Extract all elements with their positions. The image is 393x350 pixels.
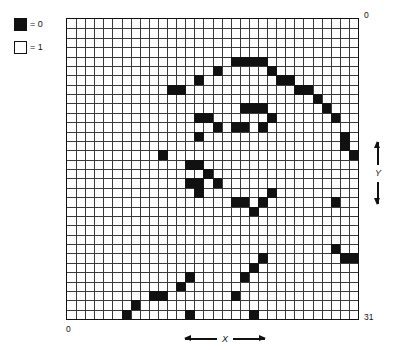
grid-cell-on[interactable] — [213, 122, 223, 132]
axis-label-top-right: 0 — [364, 11, 369, 20]
grid-cell-on[interactable] — [194, 75, 204, 85]
arrow-right-icon — [233, 338, 265, 339]
arrow-up-icon — [377, 142, 378, 165]
grid-cell-on[interactable] — [331, 197, 341, 207]
legend: = 0 = 1 — [14, 16, 62, 62]
grid-line-horizontal — [67, 225, 358, 226]
x-axis-label: X — [217, 335, 233, 344]
legend-item-zero: = 0 — [14, 16, 62, 33]
grid-cell-on[interactable] — [194, 188, 204, 198]
grid-line-horizontal — [67, 310, 358, 311]
grid-cell-on[interactable] — [176, 85, 186, 95]
grid-cell-on[interactable] — [258, 197, 268, 207]
grid-cell-on[interactable] — [349, 253, 359, 263]
grid-line-horizontal — [67, 282, 358, 283]
legend-item-zero-label: = 0 — [30, 20, 43, 29]
grid-line-horizontal — [67, 160, 358, 161]
filled-square-icon — [14, 18, 27, 31]
grid-line-horizontal — [67, 291, 358, 292]
grid-line-horizontal — [67, 150, 358, 151]
grid-cell-on[interactable] — [194, 132, 204, 142]
grid-cell-on[interactable] — [213, 178, 223, 188]
grid-cell-on[interactable] — [267, 113, 277, 123]
grid-line-horizontal — [67, 141, 358, 142]
grid-line-horizontal — [67, 272, 358, 273]
grid-cell-on[interactable] — [131, 300, 141, 310]
grid-cell-on[interactable] — [176, 282, 186, 292]
x-axis-indicator: X — [185, 332, 265, 346]
grid-cell-on[interactable] — [249, 207, 259, 217]
axis-label-bottom-right: 31 — [364, 313, 373, 322]
grid-cell-on[interactable] — [258, 122, 268, 132]
axis-label-bottom-left: 0 — [66, 325, 71, 334]
arrow-down-icon — [377, 182, 378, 205]
grid-line-horizontal — [67, 57, 358, 58]
arrow-left-icon — [185, 338, 217, 339]
grid-line-horizontal — [67, 300, 358, 301]
grid-cell-on[interactable] — [240, 122, 250, 132]
grid-cell-on[interactable] — [158, 150, 168, 160]
grid-line-horizontal — [67, 235, 358, 236]
y-axis-indicator: Y — [370, 142, 386, 204]
grid-cell-on[interactable] — [122, 310, 132, 320]
legend-item-one-label: = 1 — [30, 43, 43, 52]
grid-line-horizontal — [67, 216, 358, 217]
legend-item-one: = 1 — [14, 39, 62, 56]
grid-line-horizontal — [67, 207, 358, 208]
grid-cell-on[interactable] — [331, 113, 341, 123]
grid-line-horizontal — [67, 253, 358, 254]
grid-cell-on[interactable] — [231, 291, 241, 301]
grid-cell-on[interactable] — [213, 66, 223, 76]
y-axis-label: Y — [375, 165, 381, 182]
grid-line-horizontal — [67, 85, 358, 86]
grid-line-horizontal — [67, 263, 358, 264]
grid-line-horizontal — [67, 197, 358, 198]
grid-line-horizontal — [67, 244, 358, 245]
bitmap-cells — [67, 19, 358, 319]
grid-line-horizontal — [67, 47, 358, 48]
grid-cell-on[interactable] — [249, 310, 259, 320]
grid-cell-on[interactable] — [185, 310, 195, 320]
grid-cell-on[interactable] — [240, 272, 250, 282]
grid-line-horizontal — [67, 38, 358, 39]
grid-cell-on[interactable] — [185, 272, 195, 282]
grid-cell-on[interactable] — [267, 188, 277, 198]
grid-cell-on[interactable] — [249, 263, 259, 273]
grid-cell-on[interactable] — [258, 253, 268, 263]
empty-square-icon — [14, 41, 27, 54]
grid-cell-on[interactable] — [349, 150, 359, 160]
bitmap-grid — [66, 18, 359, 320]
grid-cell-on[interactable] — [158, 291, 168, 301]
grid-line-horizontal — [67, 28, 358, 29]
bitmap-grid-container — [66, 18, 359, 320]
